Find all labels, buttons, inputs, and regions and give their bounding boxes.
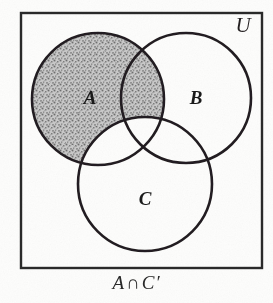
shaded-region-a-intersect-c-complement [20,20,200,200]
set-label-b: B [189,87,203,108]
venn-diagram-figure: U A B C A∩C′ [0,0,273,303]
caption-intersection-operator: ∩ [125,272,142,293]
caption-c-complement: C′ [142,272,161,293]
set-label-c: C [139,188,152,209]
caption-set-a: A [112,272,125,293]
figure-caption: A∩C′ [0,272,273,294]
universe-label: U [235,13,252,37]
set-label-a: A [83,87,97,108]
venn-diagram-canvas: U A B C [0,0,273,303]
